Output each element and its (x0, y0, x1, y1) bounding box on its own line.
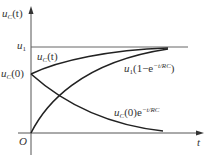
zs-label-exp: −t/RC (153, 62, 171, 70)
total-label-arg: (t) (47, 50, 57, 62)
y-axis-arrow-icon (29, 6, 34, 14)
origin-label: O (19, 136, 27, 147)
zero-state-label: u1(1−e−t/RC) (124, 63, 174, 76)
y-label-arg: (t) (12, 7, 22, 19)
diagram-canvas (0, 0, 212, 161)
total-response-label: uC(t) (37, 51, 58, 64)
zero-input-label: uC(0)e−t/RC (114, 107, 159, 120)
u1-label: u1 (17, 40, 26, 53)
x-axis-label: t (197, 137, 200, 148)
uc0-label: uC(0) (1, 68, 24, 81)
y-axis-label: uC(t) (2, 8, 23, 21)
zs-label-pre: (1−e (133, 62, 153, 74)
zi-label-pre: (0)e (124, 106, 142, 118)
zs-label-post: ) (171, 62, 175, 74)
uc0-arg: (0) (11, 67, 24, 79)
u1-sub: 1 (23, 45, 27, 53)
x-axis-arrow-icon (196, 131, 204, 136)
zi-label-exp: −t/RC (142, 106, 160, 114)
zero-input-curve (31, 74, 163, 131)
